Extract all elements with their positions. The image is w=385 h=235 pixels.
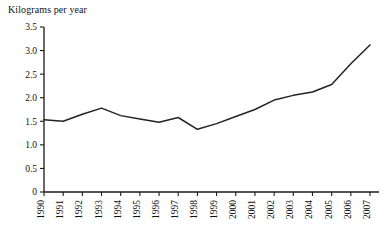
y-tick-label: 2.0 — [25, 93, 37, 103]
y-axis-tick-labels: 00.51.01.52.02.53.03.5 — [25, 22, 37, 197]
x-tick-label: 1993 — [94, 200, 104, 219]
x-axis-tick-labels: 1990199119921993199419951996199719981999… — [36, 200, 372, 219]
y-tick-label: 3.5 — [25, 22, 37, 32]
data-series-line — [44, 45, 370, 129]
y-tick-label: 3.0 — [25, 46, 37, 56]
x-tick-label: 2005 — [324, 200, 334, 219]
x-tick-label: 1998 — [189, 200, 199, 219]
x-tick-label: 1991 — [55, 200, 65, 219]
y-tick-label: 0 — [32, 187, 37, 197]
y-tick-label: 0.5 — [25, 164, 37, 174]
x-tick-label: 1992 — [74, 200, 84, 219]
x-tick-label: 1996 — [151, 200, 161, 219]
x-tick-label: 2004 — [304, 200, 314, 219]
x-tick-label: 2003 — [285, 200, 295, 219]
x-tick-label: 1999 — [209, 200, 219, 219]
y-axis-group: 00.51.01.52.02.53.03.5 — [25, 22, 44, 197]
x-tick-label: 1997 — [170, 200, 180, 219]
y-tick-label: 1.5 — [25, 117, 37, 127]
x-tick-label: 2007 — [362, 200, 372, 219]
x-tick-label: 2001 — [247, 200, 257, 219]
y-tick-label: 2.5 — [25, 70, 37, 80]
x-axis-group: 1990199119921993199419951996199719981999… — [36, 192, 379, 219]
y-tick-label: 1.0 — [25, 140, 37, 150]
x-tick-label: 1994 — [113, 200, 123, 219]
x-tick-label: 2006 — [343, 200, 353, 219]
x-tick-label: 1995 — [132, 200, 142, 219]
x-tick-label: 1990 — [36, 200, 46, 219]
chart-container: Kilograms per year 00.51.01.52.02.53.03.… — [0, 0, 385, 235]
x-tick-label: 2002 — [266, 200, 276, 219]
line-chart-plot: 00.51.01.52.02.53.03.5 19901991199219931… — [0, 0, 385, 235]
x-tick-label: 2000 — [228, 200, 238, 219]
